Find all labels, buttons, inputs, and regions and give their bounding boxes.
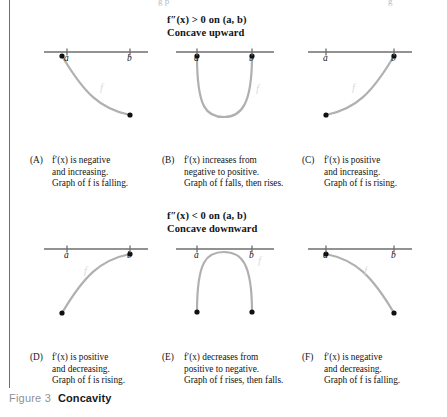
caption-a-line1: f′(x) is negative bbox=[52, 155, 162, 167]
caption-d-line1: f′(x) is positive bbox=[52, 352, 162, 364]
axis-e: a b bbox=[162, 242, 302, 262]
condition-text-down: f″(x) < 0 on (a, b) bbox=[167, 210, 247, 221]
caption-c-line3: Graph of f is rising. bbox=[324, 178, 442, 190]
curve-f-path bbox=[326, 254, 394, 313]
caption-d-line2: and decreasing. bbox=[52, 364, 162, 376]
caption-c-line2: and increasing. bbox=[324, 167, 442, 179]
label-concave-downward: Concave downward bbox=[167, 223, 258, 236]
caption-b-tag: (B) bbox=[162, 155, 174, 167]
axis-c: a b bbox=[302, 45, 442, 65]
axis-b: a b bbox=[162, 45, 302, 65]
condition-concave-upward: f″(x) > 0 on (a, b) bbox=[167, 14, 247, 27]
axis-label-d-right: b bbox=[127, 250, 132, 260]
caption-d: (D) f′(x) is positive and decreasing. Gr… bbox=[30, 352, 162, 387]
axis-label-b-right: b bbox=[249, 53, 254, 63]
caption-e-tag: (E) bbox=[162, 352, 174, 364]
axis-b-svg bbox=[162, 47, 302, 59]
heading-concave-upward: f″(x) > 0 on (a, b) Concave upward bbox=[167, 14, 247, 39]
figure-title: Concavity bbox=[58, 392, 111, 404]
axis-f: a b bbox=[302, 242, 442, 262]
caption-f-line1: f′(x) is negative bbox=[324, 352, 442, 364]
caption-b-line2: negative to positive. bbox=[184, 167, 302, 179]
endpoint-e-right bbox=[249, 309, 254, 314]
figure-caption: Figure 3Concavity bbox=[9, 392, 111, 404]
curve-b-path bbox=[197, 56, 252, 117]
caption-f-tag: (F) bbox=[302, 352, 313, 364]
caption-a-line2: and increasing. bbox=[52, 167, 162, 179]
curve-f-f-label: f bbox=[364, 264, 369, 276]
caption-c-tag: (C) bbox=[302, 155, 314, 167]
left-margin-rule bbox=[9, 0, 10, 388]
caption-f: (F) f′(x) is negative and decreasing. Gr… bbox=[302, 352, 442, 387]
condition-concave-downward: f″(x) < 0 on (a, b) bbox=[167, 210, 258, 223]
axis-label-e-left: a bbox=[194, 250, 199, 260]
caption-d-line3: Graph of f is rising. bbox=[52, 375, 162, 387]
caption-e-line1: f′(x) decreases from bbox=[184, 352, 302, 364]
caption-a: (A) f′(x) is negative and increasing. Gr… bbox=[30, 155, 162, 190]
clipped-top-text: g p g bbox=[0, 0, 447, 8]
caption-f-line2: and decreasing. bbox=[324, 364, 442, 376]
curve-a-f-label: f bbox=[100, 81, 105, 93]
caption-e-line3: Graph of f rises, then falls. bbox=[184, 375, 302, 387]
axis-label-c-left: a bbox=[323, 53, 328, 63]
curve-b-f-label: f bbox=[256, 82, 261, 94]
caption-b-line1: f′(x) increases from bbox=[184, 155, 302, 167]
axis-d: a b bbox=[22, 242, 162, 262]
axis-e-svg bbox=[162, 244, 302, 256]
panel-f: f a b (F) f′(x) is negative and decreasi… bbox=[302, 242, 442, 387]
panel-c: f a b (C) f′(x) is positive and increasi… bbox=[302, 45, 442, 190]
clipped-fragment-1: g p bbox=[158, 0, 169, 6]
curve-d-path bbox=[62, 254, 130, 313]
caption-c-line1: f′(x) is positive bbox=[324, 155, 442, 167]
axis-label-b-left: a bbox=[194, 53, 199, 63]
caption-f-line3: Graph of f is falling. bbox=[324, 375, 442, 387]
axis-label-c-right: b bbox=[391, 53, 396, 63]
endpoint-a-right bbox=[127, 112, 132, 117]
caption-c: (C) f′(x) is positive and increasing. Gr… bbox=[302, 155, 442, 190]
axis-label-a-left: a bbox=[64, 53, 69, 63]
axis-a-svg bbox=[22, 47, 162, 59]
figure-number: Figure 3 bbox=[9, 392, 51, 404]
endpoint-d-left bbox=[59, 310, 64, 315]
panel-a: f a b (A) f′(x) is negative and increasi… bbox=[22, 45, 162, 190]
clipped-fragment-2: g bbox=[388, 0, 393, 6]
axis-label-e-right: b bbox=[249, 250, 254, 260]
caption-b: (B) f′(x) increases from negative to pos… bbox=[162, 155, 302, 190]
axis-a: a b bbox=[22, 45, 162, 65]
condition-text-up: f″(x) > 0 on (a, b) bbox=[167, 14, 247, 25]
axis-label-a-right: b bbox=[127, 53, 132, 63]
curve-c-f-label: f bbox=[352, 81, 357, 93]
curve-d-f-label: f bbox=[84, 264, 89, 276]
axis-d-svg bbox=[22, 244, 162, 256]
panel-d: f a b (D) f′(x) is positive and decreasi… bbox=[22, 242, 162, 387]
caption-b-line3: Graph of f falls, then rises. bbox=[184, 178, 302, 190]
panel-b: f a b (B) f′(x) increases from negative … bbox=[162, 45, 302, 190]
axis-label-f-left: a bbox=[323, 250, 328, 260]
panel-e: f a b (E) f′(x) decreases from positive … bbox=[162, 242, 302, 387]
heading-concave-downward: f″(x) < 0 on (a, b) Concave downward bbox=[167, 210, 258, 235]
endpoint-e-left bbox=[194, 309, 199, 314]
caption-a-tag: (A) bbox=[30, 155, 43, 167]
caption-e: (E) f′(x) decreases from positive to neg… bbox=[162, 352, 302, 387]
axis-label-f-right: b bbox=[391, 250, 396, 260]
label-concave-upward: Concave upward bbox=[167, 27, 247, 40]
axis-label-d-left: a bbox=[64, 250, 69, 260]
caption-e-line2: positive to negative. bbox=[184, 364, 302, 376]
endpoint-f-right bbox=[391, 310, 396, 315]
caption-a-line3: Graph of f is falling. bbox=[52, 178, 162, 190]
figure-page: g p g f″(x) > 0 on (a, b) Concave upward… bbox=[0, 0, 447, 417]
caption-d-tag: (D) bbox=[30, 352, 43, 364]
endpoint-c-left bbox=[323, 112, 328, 117]
